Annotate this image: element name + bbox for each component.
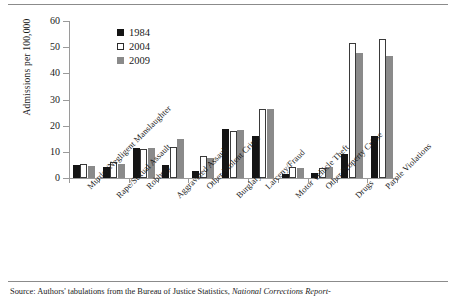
y-tick-label-20: 20 [36, 121, 60, 131]
bar-2009 [118, 164, 125, 178]
bar-2009 [386, 56, 393, 178]
source-note-text: Source: Authors' tabulations from the Bu… [10, 287, 232, 296]
bar-2009 [177, 139, 184, 178]
bar-2009 [267, 109, 274, 178]
bar-2009 [297, 168, 304, 178]
source-note-title: National Corrections Report- [232, 287, 331, 296]
bar-2004 [80, 164, 87, 178]
y-tick-label-10: 10 [36, 147, 60, 157]
bar-2004 [379, 39, 386, 178]
x-label-drugs: Drugs [353, 178, 375, 200]
bar-group [371, 21, 393, 178]
source-note: Source: Authors' tabulations from the Bu… [10, 287, 450, 297]
bar-group [73, 21, 95, 178]
y-axis-title: Admissions per 100,000 [22, 0, 32, 142]
y-tick-label-30: 30 [36, 95, 60, 105]
bar-chart: Admissions per 100,000 0102030405060 198… [0, 0, 454, 300]
x-axis-category-labels: Murder/Negligent ManslaughterRape/Sexual… [0, 180, 454, 275]
y-tick-label-50: 50 [36, 42, 60, 52]
figure-page: Admissions per 100,000 0102030405060 198… [0, 0, 454, 300]
x-axis-line [69, 178, 397, 179]
y-tick-label-40: 40 [36, 68, 60, 78]
bar-2004 [170, 147, 177, 178]
bar-1984 [73, 165, 80, 178]
bar-group [252, 21, 274, 178]
y-tick-label-60: 60 [36, 16, 60, 26]
bar-2004 [259, 109, 266, 178]
